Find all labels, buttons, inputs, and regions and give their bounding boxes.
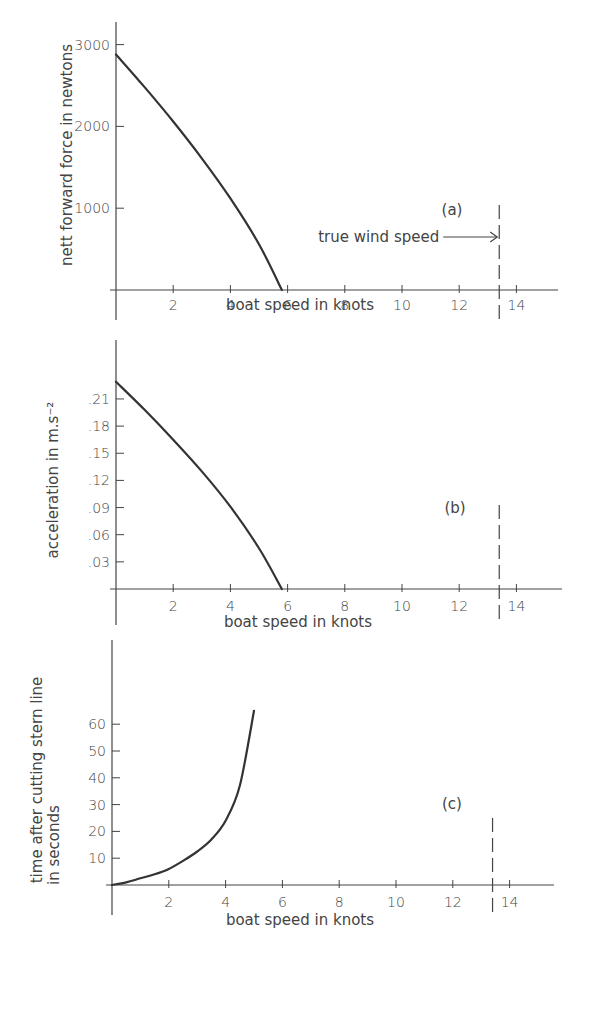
panel-label-b: (b) xyxy=(444,499,465,517)
x-tick-label: 4 xyxy=(221,894,230,910)
x-tick-label: 10 xyxy=(393,297,411,313)
x-tick-label: 10 xyxy=(387,894,405,910)
panel-label-c: (c) xyxy=(442,795,462,813)
x-tick-label: 2 xyxy=(169,297,178,313)
x-tick-label: 8 xyxy=(340,598,349,614)
x-tick-label: 2 xyxy=(164,894,173,910)
x-tick-label: 6 xyxy=(278,894,287,910)
y-tick-label: 2000 xyxy=(74,118,110,134)
true-wind-speed-label: true wind speed xyxy=(318,228,439,246)
curve-b xyxy=(116,382,282,589)
y-tick-label: .09 xyxy=(88,500,110,516)
x-tick-label: 12 xyxy=(444,894,462,910)
x-tick-label: 12 xyxy=(450,598,468,614)
y-tick-label: .03 xyxy=(88,554,110,570)
y-tick-label: .06 xyxy=(88,527,110,543)
panel-label-a: (a) xyxy=(442,201,463,219)
x-tick-label: 6 xyxy=(283,598,292,614)
y-axis-label: acceleration in m.s⁻² xyxy=(44,402,62,559)
x-axis-label: boat speed in knots xyxy=(226,911,374,929)
y-tick-label: 30 xyxy=(88,797,106,813)
curve-c xyxy=(112,711,254,885)
x-axis-label: boat speed in knots xyxy=(226,296,374,314)
y-axis-label: in seconds xyxy=(45,805,63,885)
x-tick-label: 14 xyxy=(501,894,519,910)
y-tick-label: 3000 xyxy=(74,37,110,53)
y-tick-label: 20 xyxy=(88,823,106,839)
y-tick-label: .21 xyxy=(88,391,110,407)
boat-speed-charts: 2468101214100020003000true wind speed(a)… xyxy=(0,0,590,1013)
y-tick-label: .18 xyxy=(88,418,110,434)
x-tick-label: 12 xyxy=(450,297,468,313)
x-tick-label: 14 xyxy=(507,598,525,614)
y-tick-label: .12 xyxy=(88,472,110,488)
y-tick-label: .15 xyxy=(88,445,110,461)
x-tick-label: 2 xyxy=(169,598,178,614)
curve-a xyxy=(116,54,282,290)
y-axis-label: time after cutting stern line xyxy=(28,677,46,884)
y-tick-label: 40 xyxy=(88,770,106,786)
x-tick-label: 10 xyxy=(393,598,411,614)
x-tick-label: 4 xyxy=(226,598,235,614)
x-tick-label: 14 xyxy=(507,297,525,313)
x-axis-label: boat speed in knots xyxy=(224,613,372,631)
y-tick-label: 50 xyxy=(88,743,106,759)
x-tick-label: 8 xyxy=(335,894,344,910)
y-axis-label: nett forward force in newtons xyxy=(58,44,76,266)
y-tick-label: 1000 xyxy=(74,200,110,216)
y-tick-label: 60 xyxy=(88,716,106,732)
y-tick-label: 10 xyxy=(88,850,106,866)
